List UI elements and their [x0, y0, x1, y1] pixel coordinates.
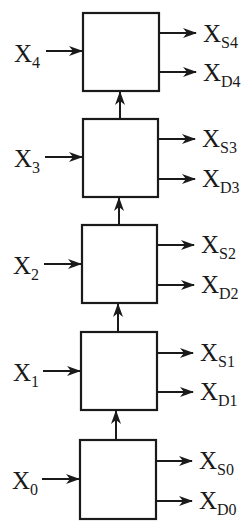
stage-4-input-label: X4 [14, 40, 40, 71]
stage-3-input-label: X3 [14, 145, 40, 176]
stage-2-input-label: X2 [13, 252, 39, 283]
stage-4-block [83, 13, 159, 91]
stage-1-block [81, 332, 157, 410]
stage-0-output-d-label: XD0 [199, 487, 237, 518]
stage-0-block [80, 440, 156, 519]
stage-1: X1 XS1 XD1 [13, 332, 238, 410]
stage-1-input-label: X1 [13, 359, 39, 390]
stage-3-output-s-label: XS3 [202, 125, 237, 156]
stage-2-output-s-label: XS2 [201, 231, 236, 262]
stage-2-block [82, 225, 157, 303]
stage-4-output-s-label: XS4 [203, 20, 238, 51]
stage-0-output-s-label: XS0 [199, 447, 234, 478]
stage-0: X0 XS0 XD0 [12, 440, 237, 519]
stage-4-output-d-label: XD4 [203, 59, 241, 90]
stage-3-output-d-label: XD3 [202, 165, 240, 196]
stage-0-input-label: X0 [12, 467, 38, 498]
stage-4: X4 XS4 XD4 [14, 13, 241, 91]
stage-1-output-d-label: XD1 [200, 378, 238, 409]
stage-3: X3 XS3 XD3 [14, 119, 240, 197]
stage-1-output-s-label: XS1 [200, 339, 235, 370]
stage-2-output-d-label: XD2 [201, 271, 239, 302]
cascade-diagram: X4 XS4 XD4 X3 XS3 XD3 X2 XS2 XD2 X1 XS1 … [0, 0, 250, 527]
stage-3-block [83, 119, 158, 197]
stage-2: X2 XS2 XD2 [13, 225, 239, 303]
